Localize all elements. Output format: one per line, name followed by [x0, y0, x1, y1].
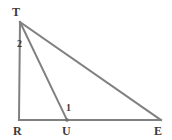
point-U-marker [65, 118, 69, 122]
angle-label-2: 2 [17, 39, 22, 49]
figure-canvas [0, 0, 172, 140]
vertex-label-E: E [154, 125, 162, 137]
vertex-label-R: R [13, 125, 22, 137]
segment-TR [19, 22, 20, 120]
vertex-label-U: U [62, 125, 71, 137]
vertex-label-T: T [12, 6, 20, 18]
geometry-figure: T R U E 2 1 [0, 0, 172, 140]
angle-label-1: 1 [66, 103, 71, 113]
